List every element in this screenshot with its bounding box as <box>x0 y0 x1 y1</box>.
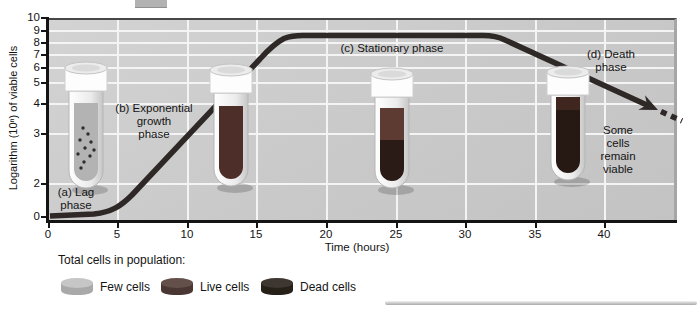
y-tick <box>41 54 47 56</box>
y-tick <box>41 82 47 84</box>
gridline <box>326 20 328 220</box>
annotation-death-phase: (d) Death phase <box>587 48 635 74</box>
y-tick <box>41 183 47 185</box>
bacterial-growth-curve-figure: 10 9 8 7 6 5 4 3 2 0 0 5 10 15 20 25 30 … <box>0 0 697 313</box>
y-tick <box>41 67 47 69</box>
x-axis-title: Time (hours) <box>325 241 390 253</box>
x-axis-line <box>46 220 677 223</box>
legend-title: Total cells in population: <box>58 253 185 267</box>
page-edge-artifact <box>385 301 697 305</box>
x-tick-label: 40 <box>598 228 611 240</box>
gridline <box>48 67 674 69</box>
x-tick-label: 0 <box>45 228 51 240</box>
annotation-lag-phase: (a) Lag phase <box>58 186 94 212</box>
page-tab-artifact <box>135 0 167 8</box>
x-tick-label: 30 <box>459 228 472 240</box>
dead-cells-swatch-icon <box>260 275 294 297</box>
x-tick-label: 15 <box>250 228 263 240</box>
legend-item-live-cells <box>160 275 194 301</box>
few-cells-swatch-icon <box>60 275 94 297</box>
gridline <box>256 20 258 220</box>
annotation-stationary-phase: (c) Stationary phase <box>341 42 444 55</box>
x-tick-label: 10 <box>181 228 194 240</box>
legend-item-dead-cells <box>260 275 294 301</box>
gridline <box>48 82 674 84</box>
legend-label-dead-cells: Dead cells <box>300 280 356 294</box>
x-tick-label: 25 <box>390 228 403 240</box>
x-tick-label: 20 <box>320 228 333 240</box>
gridline <box>465 20 467 220</box>
y-tick <box>41 30 47 32</box>
y-tick <box>41 42 47 44</box>
gridline <box>48 30 674 32</box>
legend-item-few-cells <box>60 275 94 301</box>
legend-label-few-cells: Few cells <box>100 280 150 294</box>
annotation-some-cells-remain: Some cells remain viable <box>600 124 635 176</box>
y-tick <box>41 17 47 19</box>
y-tick <box>41 103 47 105</box>
x-tick-label: 35 <box>529 228 542 240</box>
live-cells-swatch-icon <box>160 275 194 297</box>
y-axis-line <box>46 17 49 222</box>
legend-label-live-cells: Live cells <box>200 280 249 294</box>
gridline <box>535 20 537 220</box>
y-tick <box>41 216 47 218</box>
y-tick <box>41 133 47 135</box>
y-axis-title: Logarithm (10ⁿ) of viable cells <box>7 18 19 218</box>
x-tick-label: 5 <box>114 228 120 240</box>
annotation-exponential-phase: (b) Exponential growth phase <box>115 102 192 141</box>
gridline <box>48 183 674 185</box>
